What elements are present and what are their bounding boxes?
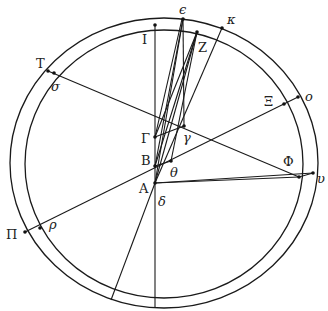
point-rho <box>38 226 42 230</box>
label-kappa: κ <box>226 12 236 27</box>
point-Pi <box>23 230 27 234</box>
line-sigma-Phi <box>48 71 299 177</box>
label-Gamma: Γ <box>141 131 150 146</box>
line-Gamma-epsilon <box>155 19 182 137</box>
line-A-bottom <box>111 183 155 300</box>
label-T: T <box>36 56 45 71</box>
point-Phi <box>297 175 301 179</box>
label-epsilon: ϵ <box>179 2 187 17</box>
line-A-kappa <box>155 28 222 183</box>
point-Xi <box>282 102 286 106</box>
point-sigma <box>52 71 56 75</box>
line-Gamma-Z <box>155 32 197 137</box>
label-Z: Z <box>198 40 207 55</box>
point-o <box>296 95 300 99</box>
label-theta: θ <box>170 165 178 180</box>
line-B-Z <box>155 32 197 166</box>
point-gamma <box>182 124 186 128</box>
point-upsilon <box>311 171 315 175</box>
label-rho: ρ <box>48 217 57 232</box>
inner-circle <box>25 30 303 298</box>
point-B <box>153 164 157 168</box>
label-upsilon: υ <box>317 171 325 186</box>
line-B-epsilon <box>155 19 183 166</box>
line-gamma-epsilon <box>183 19 184 126</box>
label-A: A <box>138 181 149 196</box>
label-Pi: Π <box>6 227 17 242</box>
point-I <box>153 23 157 27</box>
point-T <box>46 69 50 73</box>
geometric-figure: I ϵ Z κ T σ Ξ o Γ γ B θ A δ Φ υ Π ρ <box>0 0 328 311</box>
label-gamma: γ <box>183 130 191 145</box>
label-sigma: σ <box>51 79 61 94</box>
line-A-upsilon <box>155 173 313 183</box>
point-A <box>153 181 157 185</box>
label-o: o <box>305 89 313 104</box>
label-delta: δ <box>158 194 166 209</box>
point-kappa <box>220 26 224 30</box>
point-Gamma <box>153 135 157 139</box>
label-Xi: Ξ <box>264 94 273 109</box>
label-B: B <box>141 153 151 168</box>
label-Phi: Φ <box>283 154 294 169</box>
point-Z <box>195 30 199 34</box>
point-epsilon <box>181 17 185 21</box>
point-theta <box>169 159 173 163</box>
label-I: I <box>142 32 147 47</box>
